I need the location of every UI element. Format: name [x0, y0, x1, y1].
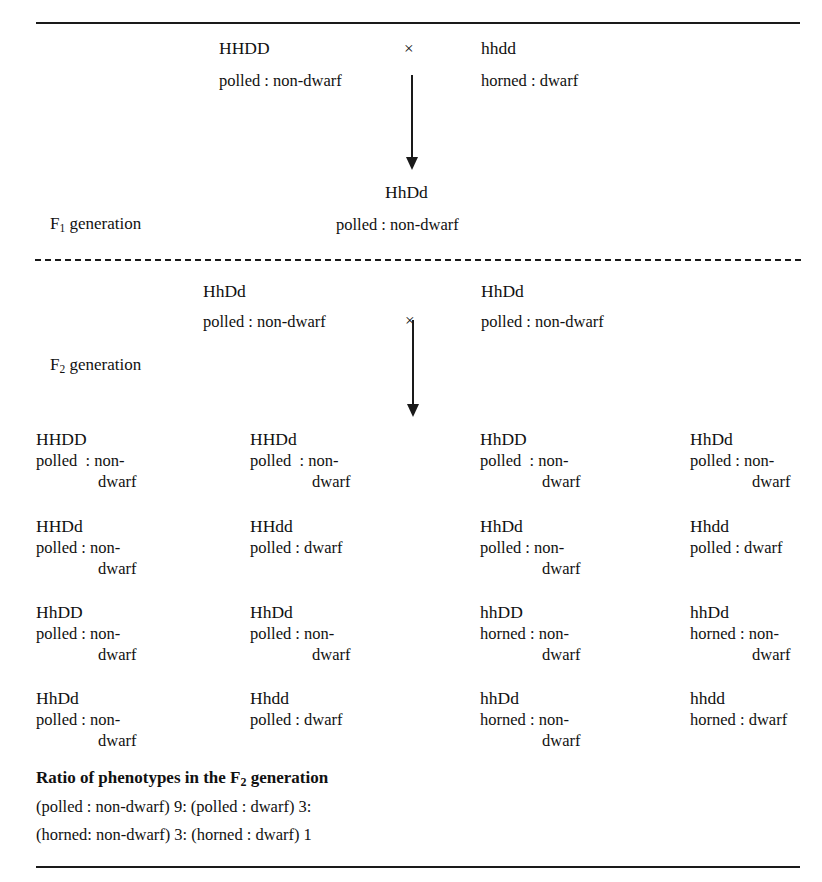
offspring-cell: HHDD polled : non-dwarf — [36, 428, 236, 492]
offspring-genotype: HhDD — [480, 428, 680, 450]
phenotype-line-2: dwarf — [36, 471, 236, 492]
offspring-genotype: HhDd — [36, 687, 236, 709]
offspring-cell: HHdd polled : dwarf — [250, 515, 450, 558]
offspring-genotype: Hhdd — [250, 687, 450, 709]
offspring-cell: HhDd polled : non-dwarf — [690, 428, 822, 492]
f1-generation-label: F1 generation — [50, 214, 141, 234]
phenotype-line-2: dwarf — [480, 558, 680, 579]
f2-cross-left-genotype: HhDd — [203, 281, 246, 302]
parental-right-phenotype: horned : dwarf — [481, 70, 578, 91]
offspring-phenotype: polled : non-dwarf — [690, 450, 822, 492]
offspring-cell: Hhdd polled : dwarf — [690, 515, 822, 558]
offspring-cell: Hhdd polled : dwarf — [250, 687, 450, 730]
offspring-genotype: HhDD — [36, 601, 236, 623]
phenotype-line-2: dwarf — [690, 644, 822, 665]
f2-label-suffix: generation — [65, 355, 141, 374]
parental-left-genotype: HHDD — [219, 38, 270, 59]
phenotype-line-1: polled : non- — [250, 624, 334, 643]
f1-genotype: HhDd — [385, 182, 428, 203]
offspring-phenotype: horned : non-dwarf — [690, 623, 822, 665]
ratio-title-subscript: 2 — [240, 775, 246, 789]
offspring-genotype: HHdd — [250, 515, 450, 537]
phenotype-line-2: dwarf — [250, 644, 450, 665]
ratio-line-2: (horned: non-dwarf) 3: (horned : dwarf) … — [36, 825, 312, 845]
phenotype-line-2: dwarf — [250, 471, 450, 492]
ratio-line-1: (polled : non-dwarf) 9: (polled : dwarf)… — [36, 797, 311, 817]
phenotype-line-2: dwarf — [480, 471, 680, 492]
offspring-genotype: HhDd — [480, 515, 680, 537]
offspring-genotype: hhDd — [480, 687, 680, 709]
phenotype-line-2: dwarf — [690, 471, 822, 492]
phenotype-line-1: polled : non- — [36, 538, 120, 557]
offspring-cell: hhDD horned : non-dwarf — [480, 601, 680, 665]
phenotype-line-1: polled : non- — [36, 710, 120, 729]
bottom-horizontal-rule — [36, 866, 800, 868]
phenotype-line-1: polled : non- — [480, 451, 568, 470]
f1-phenotype: polled : non-dwarf — [336, 214, 459, 235]
phenotype-line-1: polled : dwarf — [690, 538, 783, 557]
offspring-phenotype: polled : non-dwarf — [36, 537, 236, 579]
offspring-phenotype: horned : non-dwarf — [480, 709, 680, 751]
offspring-phenotype: polled : non-dwarf — [480, 450, 680, 492]
phenotype-line-1: polled : dwarf — [250, 538, 343, 557]
offspring-genotype: HHDD — [36, 428, 236, 450]
f2-label-subscript: 2 — [59, 363, 65, 375]
f1-label-suffix: generation — [65, 214, 141, 233]
offspring-cell: HHDd polled : non-dwarf — [36, 515, 236, 579]
offspring-genotype: hhdd — [690, 687, 822, 709]
offspring-genotype: hhDD — [480, 601, 680, 623]
cross-symbol-parental: × — [404, 40, 414, 57]
phenotype-line-2: dwarf — [36, 644, 236, 665]
phenotype-line-2: dwarf — [36, 558, 236, 579]
f1-label-subscript: 1 — [59, 222, 65, 234]
offspring-genotype: hhDd — [690, 601, 822, 623]
phenotype-line-2: dwarf — [36, 730, 236, 751]
offspring-cell: hhDd horned : non-dwarf — [690, 601, 822, 665]
phenotype-line-2: dwarf — [480, 644, 680, 665]
top-horizontal-rule — [36, 22, 800, 24]
offspring-genotype: HhDd — [690, 428, 822, 450]
f2-cross-right-genotype: HhDd — [481, 281, 524, 302]
phenotype-line-1: polled : non- — [36, 624, 120, 643]
offspring-phenotype: polled : dwarf — [250, 537, 450, 558]
offspring-cell: HhDD polled : non-dwarf — [480, 428, 680, 492]
phenotype-line-1: horned : non- — [480, 710, 569, 729]
ratio-heading: Ratio of phenotypes in the F2 generation — [36, 768, 328, 788]
phenotype-line-1: polled : dwarf — [250, 710, 343, 729]
offspring-phenotype: polled : non-dwarf — [36, 450, 236, 492]
offspring-cell: HhDd polled : non-dwarf — [36, 687, 236, 751]
offspring-phenotype: polled : non-dwarf — [36, 709, 236, 751]
offspring-phenotype: horned : dwarf — [690, 709, 822, 730]
f2-cross-right-phenotype: polled : non-dwarf — [481, 311, 604, 332]
offspring-genotype: Hhdd — [690, 515, 822, 537]
phenotype-line-1: horned : dwarf — [690, 710, 787, 729]
offspring-cell: HhDd polled : non-dwarf — [250, 601, 450, 665]
ratio-title-suffix: generation — [246, 768, 328, 787]
offspring-phenotype: polled : dwarf — [250, 709, 450, 730]
offspring-phenotype: horned : non-dwarf — [480, 623, 680, 665]
phenotype-line-1: polled : non- — [690, 451, 774, 470]
offspring-cell: HHDd polled : non-dwarf — [250, 428, 450, 492]
dashed-divider — [35, 259, 801, 261]
offspring-phenotype: polled : non-dwarf — [480, 537, 680, 579]
offspring-genotype: HhDd — [250, 601, 450, 623]
down-arrow-icon-f2-to-offspring — [406, 320, 420, 415]
offspring-genotype: HHDd — [36, 515, 236, 537]
offspring-genotype: HHDd — [250, 428, 450, 450]
offspring-cell: hhdd horned : dwarf — [690, 687, 822, 730]
offspring-cell: HhDD polled : non-dwarf — [36, 601, 236, 665]
parental-left-phenotype: polled : non-dwarf — [219, 70, 342, 91]
f2-cross-left-phenotype: polled : non-dwarf — [203, 311, 326, 332]
offspring-phenotype: polled : non-dwarf — [250, 450, 450, 492]
offspring-phenotype: polled : non-dwarf — [36, 623, 236, 665]
ratio-title-prefix: Ratio of phenotypes in the F — [36, 768, 240, 787]
offspring-cell: hhDd horned : non-dwarf — [480, 687, 680, 751]
parental-right-genotype: hhdd — [481, 38, 516, 59]
phenotype-line-1: polled : non- — [250, 451, 338, 470]
phenotype-line-1: polled : non- — [36, 451, 124, 470]
phenotype-line-1: horned : non- — [690, 624, 779, 643]
f2-generation-label: F2 generation — [50, 355, 141, 375]
phenotype-line-1: horned : non- — [480, 624, 569, 643]
down-arrow-icon-parental-to-f1 — [405, 75, 419, 170]
offspring-cell: HhDd polled : non-dwarf — [480, 515, 680, 579]
